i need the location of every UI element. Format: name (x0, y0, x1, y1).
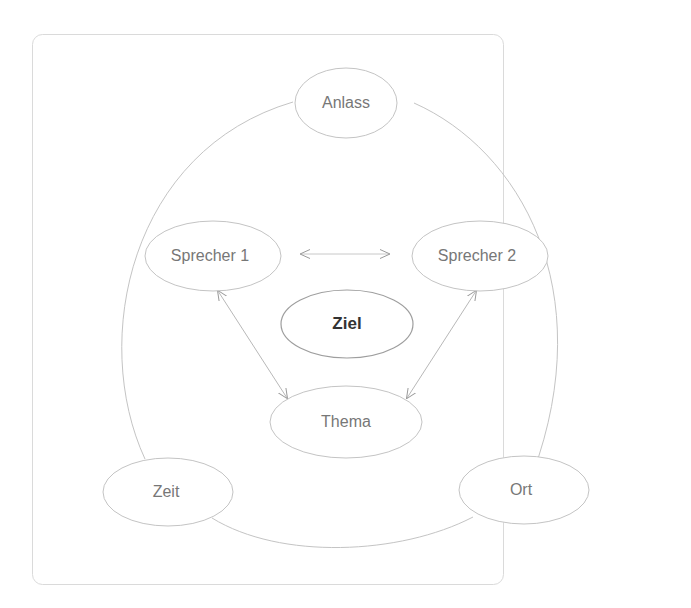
diagram-content: Anlass Sprecher 1 Sprecher 2 Ziel Thema … (0, 0, 691, 608)
node-ort: Ort (459, 456, 589, 524)
node-ziel-label: Ziel (332, 314, 361, 333)
frame-border (33, 35, 504, 585)
node-zeit-label: Zeit (153, 483, 180, 500)
arc-ort-zeit (212, 517, 473, 548)
node-ziel: Ziel (281, 290, 413, 358)
arrow-sprecher2-thema (407, 291, 476, 398)
node-ort-label: Ort (510, 481, 533, 498)
node-thema-label: Thema (321, 413, 371, 430)
arrow-sprecher1-thema (218, 291, 287, 398)
node-sprecher1-label: Sprecher 1 (171, 247, 249, 264)
node-sprecher1: Sprecher 1 (145, 221, 281, 291)
node-thema: Thema (270, 386, 422, 458)
node-zeit: Zeit (103, 458, 233, 526)
node-anlass-label: Anlass (322, 94, 370, 111)
node-sprecher2-label: Sprecher 2 (438, 247, 516, 264)
node-sprecher2: Sprecher 2 (412, 221, 548, 291)
node-anlass: Anlass (295, 68, 397, 138)
